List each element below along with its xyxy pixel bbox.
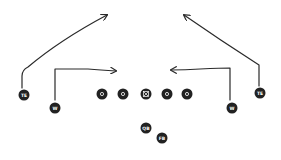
player-label: TE [257,91,263,96]
player-w-right: W [227,103,238,114]
player-ol-4 [162,89,173,100]
play-diagram: TE W W TE QB FB [0,0,281,160]
player-ol-5 [182,89,193,100]
player-label: W [53,106,58,111]
route-te-left [22,15,107,88]
player-label: FB [159,136,166,141]
routes [22,15,259,100]
player-label: TE [21,93,27,98]
player-qb: QB [141,123,152,134]
player-center [141,89,152,100]
player-label: QB [142,126,150,131]
player-w-left: W [50,103,61,114]
player-ol-2 [118,89,129,100]
player-ol-1 [97,89,108,100]
route-te-right [184,15,259,86]
route-w-right [171,68,230,100]
player-te-left: TE [19,90,30,101]
player-te-right: TE [255,88,266,99]
player-label: W [230,106,235,111]
player-fb: FB [157,133,168,144]
